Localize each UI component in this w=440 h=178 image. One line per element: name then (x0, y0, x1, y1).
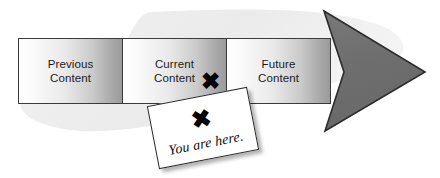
note-x-icon: ✖ (189, 105, 213, 132)
illustration-canvas: Previous Content Current Content ✖ Futur… (0, 0, 440, 178)
note-text: You are here. (168, 130, 245, 158)
